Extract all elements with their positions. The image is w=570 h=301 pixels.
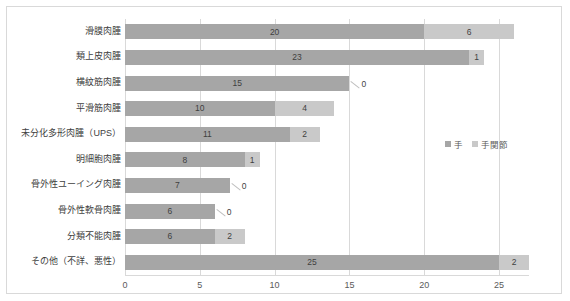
bar-segment-te[interactable]: 11 — [125, 127, 290, 142]
bar-segment-te[interactable]: 6 — [125, 204, 215, 219]
legend-swatch-icon — [445, 141, 451, 147]
value-axis-tick-label: 15 — [344, 280, 354, 290]
legend-item[interactable]: 手関節 — [472, 138, 508, 150]
bar-row[interactable]: 81 — [125, 152, 529, 167]
bar-row[interactable]: 6 — [125, 204, 529, 219]
category-label: 骨外性ユーイング肉腫 — [31, 180, 121, 189]
bar-value-label: 11 — [203, 130, 212, 139]
bar-value-label: 23 — [292, 53, 301, 62]
value-axis-tick-label: 5 — [197, 280, 202, 290]
bar-value-label: 2 — [302, 130, 307, 139]
bar-value-label: 1 — [250, 156, 255, 165]
bar-segment-te[interactable]: 23 — [125, 50, 469, 65]
bar-value-label: 2 — [512, 258, 517, 267]
bar-segment-tekansetsu[interactable]: 2 — [215, 229, 245, 244]
bar-segment-te[interactable]: 15 — [125, 76, 349, 91]
category-axis-labels: 滑膜肉腫類上皮肉腫横紋筋肉腫平滑筋肉腫未分化多形肉腫（UPS）明細胞肉腫骨外性ユ… — [7, 19, 121, 275]
category-label: その他（不詳、悪性） — [31, 257, 121, 266]
category-label: 滑膜肉腫 — [85, 27, 121, 36]
bar-segment-te[interactable]: 20 — [125, 24, 424, 39]
chart-frame: 滑膜肉腫類上皮肉腫横紋筋肉腫平滑筋肉腫未分化多形肉腫（UPS）明細胞肉腫骨外性ユ… — [6, 6, 562, 294]
category-label: 明細胞肉腫 — [76, 155, 121, 164]
bar-row[interactable]: 252 — [125, 255, 529, 270]
bar-segment-te[interactable]: 8 — [125, 152, 245, 167]
bar-value-label: 25 — [307, 258, 316, 267]
category-label: 平滑筋肉腫 — [76, 104, 121, 113]
bar-value-label: 10 — [195, 104, 204, 113]
bar-value-label: 4 — [302, 104, 307, 113]
bar-segment-tekansetsu[interactable]: 6 — [424, 24, 514, 39]
bar-value-label: 6 — [168, 232, 173, 241]
bar-segment-te[interactable]: 6 — [125, 229, 215, 244]
category-label: 未分化多形肉腫（UPS） — [21, 129, 121, 138]
category-label: 類上皮肉腫 — [76, 52, 121, 61]
bar-value-label: 15 — [232, 79, 241, 88]
bar-row[interactable]: 206 — [125, 24, 529, 39]
bar-segment-tekansetsu[interactable]: 1 — [245, 152, 260, 167]
category-label: 骨外性軟骨肉腫 — [58, 206, 121, 215]
bar-row[interactable]: 15 — [125, 76, 529, 91]
bar-value-label: 7 — [175, 181, 180, 190]
bar-value-label: 1 — [474, 53, 479, 62]
bar-value-label: 20 — [270, 28, 279, 37]
value-axis-labels: 0510152025 — [125, 275, 529, 297]
bar-value-label: 6 — [168, 207, 173, 216]
legend-label: 手 — [454, 138, 463, 150]
bar-segment-tekansetsu[interactable]: 4 — [275, 101, 335, 116]
legend-label: 手関節 — [481, 138, 508, 150]
category-label: 横紋筋肉腫 — [76, 78, 121, 87]
bar-segment-te[interactable]: 7 — [125, 178, 230, 193]
bar-row[interactable]: 7 — [125, 178, 529, 193]
bar-segment-te[interactable]: 25 — [125, 255, 499, 270]
bar-row[interactable]: 231 — [125, 50, 529, 65]
bar-row[interactable]: 104 — [125, 101, 529, 116]
bar-segment-tekansetsu[interactable]: 2 — [290, 127, 320, 142]
legend-swatch-icon — [472, 141, 478, 147]
bar-value-label: 2 — [227, 232, 232, 241]
chart-legend: 手手関節 — [445, 138, 508, 150]
bar-row[interactable]: 62 — [125, 229, 529, 244]
bar-value-label: 6 — [467, 28, 472, 37]
category-label: 分類不能肉腫 — [67, 232, 121, 241]
value-axis-tick-label: 20 — [419, 280, 429, 290]
value-axis-tick-label: 25 — [494, 280, 504, 290]
bar-segment-te[interactable]: 10 — [125, 101, 275, 116]
value-axis-tick-label: 10 — [270, 280, 280, 290]
bar-value-label: 8 — [182, 156, 187, 165]
bar-segment-tekansetsu[interactable]: 2 — [499, 255, 529, 270]
legend-item[interactable]: 手 — [445, 138, 463, 150]
bar-segment-tekansetsu[interactable]: 1 — [469, 50, 484, 65]
value-axis-tick-label: 0 — [122, 280, 127, 290]
